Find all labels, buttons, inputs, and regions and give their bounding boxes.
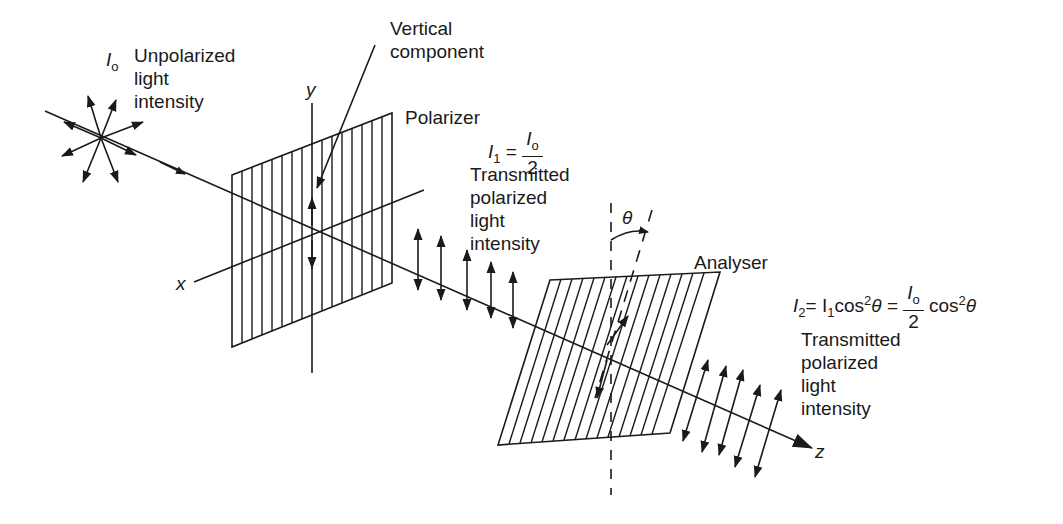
transmitted2-line-2: polarized [801, 351, 901, 374]
transmitted-label-1: Transmitted polarized light intensity [470, 163, 570, 255]
unpolarized-light-label: Unpolarized light intensity [134, 44, 235, 113]
i2-tail-cos: cos [929, 295, 959, 316]
vertical-component-pointer [317, 45, 375, 188]
i2-fraction: Io 2 [903, 282, 924, 332]
x-axis-label: x [176, 272, 186, 295]
i2-i1-term: = I [806, 295, 828, 316]
transmitted-label-2: Transmitted polarized light intensity [801, 328, 901, 420]
analyser-label: Analyser [694, 251, 768, 274]
x-axis [194, 190, 424, 282]
beam-direction-arrow-icon [160, 162, 185, 174]
source-intensity-label: Io [106, 48, 119, 78]
i2-subscript: 2 [798, 305, 805, 320]
transmitted2-line-3: light [801, 374, 901, 397]
i2-tail-power: 2 [959, 293, 966, 308]
z-axis-label: z [815, 440, 825, 463]
y-axis-label: y [306, 78, 316, 101]
i2-denominator: 2 [903, 311, 924, 332]
transmitted1-line-1: Transmitted [470, 163, 570, 186]
i2-tail-theta: θ [966, 295, 976, 316]
theta-label: θ [622, 206, 632, 229]
polarizer-label: Polarizer [405, 106, 480, 129]
unpolarized-line-1: Unpolarized [134, 44, 235, 67]
vertical-component-label: Vertical component [390, 17, 484, 63]
i2-theta-equals: θ = [871, 295, 898, 316]
transmitted2-line-1: Transmitted [801, 328, 901, 351]
transmitted2-line-4: intensity [801, 397, 901, 420]
i2-numerator-sub: o [912, 292, 919, 307]
transmitted1-line-3: light [470, 209, 570, 232]
vertical-component-line-1: Vertical [390, 17, 484, 40]
transmitted1-line-4: intensity [470, 232, 570, 255]
i1-equals: = [506, 141, 517, 162]
unpolarized-light-star-icon [62, 96, 143, 182]
unpolarized-line-3: intensity [134, 90, 235, 113]
io-subscript: o [111, 59, 118, 74]
analyser-axis-dashed-line [595, 210, 652, 398]
vertical-component-line-2: component [390, 40, 484, 63]
i1-numerator-sub: o [531, 138, 538, 153]
i2-cos: cos [834, 295, 864, 316]
unpolarized-line-2: light [134, 67, 235, 90]
theta-arc [611, 231, 648, 240]
tilted-polarized-arrows [683, 360, 781, 477]
i2-equation: I2= I1cos2θ = Io 2 cos2θ [793, 282, 976, 332]
transmitted1-line-2: polarized [470, 186, 570, 209]
